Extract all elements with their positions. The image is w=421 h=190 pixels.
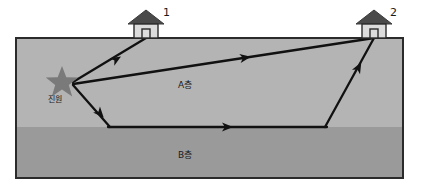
station-2-number: 2: [390, 6, 397, 19]
layer-b-label: B층: [178, 148, 192, 161]
house-roof: [128, 10, 164, 24]
house-icon-station-1: [128, 10, 164, 38]
house-door: [370, 29, 378, 38]
house-icon-station-2: [356, 10, 392, 38]
house-door: [142, 29, 150, 38]
house-roof: [356, 10, 392, 24]
diagram-canvas: [0, 0, 421, 190]
seismic-ray-diagram: 1 2 진원 A층 B층: [0, 0, 421, 190]
layer-a-label: A층: [178, 78, 192, 91]
station-1-number: 1: [163, 6, 170, 19]
layer-b-block: [16, 127, 403, 178]
focus-label: 진원: [48, 93, 62, 104]
